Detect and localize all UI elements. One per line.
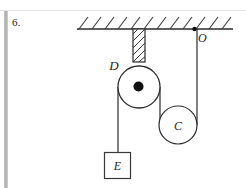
pulley-d-hub (134, 82, 144, 92)
pulley-c-label: C (174, 119, 183, 133)
pulley-system-diagram: C D O E (0, 0, 246, 188)
figure-page: 6. (0, 0, 246, 188)
ceiling-hatching (79, 17, 231, 29)
ceiling-group (77, 17, 233, 29)
pulley-d-label: D (108, 58, 119, 73)
hanger-bar-group (131, 27, 147, 66)
block-e-label: E (113, 159, 122, 173)
anchor-point-o-label: O (198, 31, 207, 45)
anchor-point-o (192, 27, 196, 31)
